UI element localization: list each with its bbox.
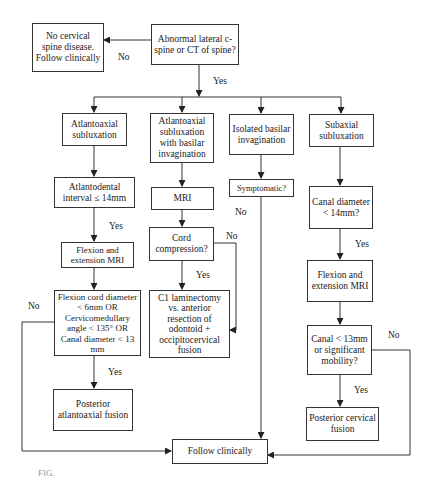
edge-label-adi-yes: Yes [109,221,123,232]
figure-caption: FIG. [38,468,55,478]
edge-label-canal-diam-yes: Yes [355,239,369,250]
atlantodental-interval-box: Atlantodental interval ≤ 14mm [54,177,135,208]
edge-label-criteria-yes: Yes [108,367,122,378]
isolated-basilar-box: Isolated basilar invagination [229,114,294,155]
edge-label-criteria-no: No [28,301,40,312]
posterior-cervical-fusion-box: Posterior cervical fusion [306,407,379,441]
flexion-extension-mri-left-box: Flexion and extension MRI [61,242,134,268]
symptomatic-box: Symptomatic? [229,179,294,197]
subaxial-subluxation-box: Subaxial subluxation [309,114,374,147]
edge-label-start-no: No [118,52,130,63]
edge-label-symptomatic-no: No [235,207,247,218]
edge-label-canal13-no: No [388,330,400,341]
canal-diameter-box: Canal diameter < 14mm? [309,186,373,229]
flexion-extension-mri-right-box: Flexion and extension MRI [307,260,373,302]
edge-label-canal13-yes: Yes [354,385,368,396]
c1-laminectomy-box: C1 laminectomy vs. anterior resection of… [149,290,230,358]
start-decision-box: Abnormal lateral c-spine or CT of spine? [151,24,239,65]
posterior-atlantoaxial-fusion-box: Posterior atlantoaxial fusion [53,389,133,431]
follow-clinically-box: Follow clinically [172,439,268,464]
no-disease-box: No cervical spine disease. Follow clinic… [32,23,104,72]
canal-13mm-box: Canal < 13mm or significant mobility? [307,325,372,375]
edge-label-cord-no: No [226,231,238,242]
edge-label-cord-yes: Yes [196,270,210,281]
edge-label-start-yes: Yes [213,76,227,87]
mri-box: MRI [151,187,214,210]
cord-compression-box: Cord compression? [149,227,214,261]
criteria-left-box: Flexion cord diameter < 6mm OR Cervicome… [54,290,141,356]
aa-basilar-box: Atlantoaxial subluxation with basilar in… [150,113,214,163]
atlantoaxial-subluxation-box: Atlantoaxial subluxation [62,113,127,146]
